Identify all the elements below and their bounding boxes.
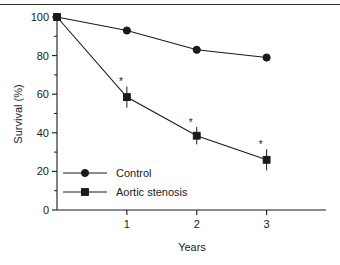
y-tick-label-0: 0 xyxy=(43,204,49,216)
asterisk-year-1: * xyxy=(119,76,123,87)
marker-aortic-stenosis-year-2 xyxy=(193,132,200,139)
marker-aortic-stenosis-year-3 xyxy=(263,156,270,163)
survival-line-chart: 020406080100 123 Survival (%) Years *** … xyxy=(0,0,340,265)
figure-container: 020406080100 123 Survival (%) Years *** … xyxy=(0,0,340,265)
x-axis-tick-labels: 123 xyxy=(124,218,270,230)
data-point-markers xyxy=(53,13,270,163)
legend-label-aortic-stenosis: Aortic stenosis xyxy=(116,186,188,198)
x-axis-ticks xyxy=(127,210,267,215)
series-lines xyxy=(57,17,267,160)
series-line-control xyxy=(57,17,267,58)
x-axis-title: Years xyxy=(178,241,206,253)
legend-marker-aortic-stenosis xyxy=(82,189,89,196)
marker-aortic-stenosis-year-1 xyxy=(123,94,130,101)
legend-marker-control xyxy=(81,169,88,176)
y-tick-label-80: 80 xyxy=(37,50,49,62)
x-tick-label-1: 1 xyxy=(124,218,130,230)
y-axis-title: Survival (%) xyxy=(12,84,24,143)
marker-control-year-1 xyxy=(123,27,130,34)
legend: ControlAortic stenosis xyxy=(63,167,188,198)
axes-group xyxy=(57,17,326,210)
x-tick-label-2: 2 xyxy=(194,218,200,230)
y-tick-label-20: 20 xyxy=(37,165,49,177)
legend-label-control: Control xyxy=(116,167,151,179)
asterisk-year-2: * xyxy=(189,117,193,128)
y-axis-tick-labels: 020406080100 xyxy=(31,11,49,216)
error-bars xyxy=(127,86,267,170)
y-tick-label-60: 60 xyxy=(37,88,49,100)
y-tick-label-100: 100 xyxy=(31,11,49,23)
series-line-aortic-stenosis xyxy=(57,17,267,160)
x-tick-label-3: 3 xyxy=(264,218,270,230)
marker-control-year-2 xyxy=(193,46,200,53)
y-tick-label-40: 40 xyxy=(37,127,49,139)
significance-asterisks: *** xyxy=(119,76,263,150)
marker-control-year-3 xyxy=(263,54,270,61)
asterisk-year-3: * xyxy=(259,139,263,150)
marker-aortic-stenosis-year-0 xyxy=(54,14,61,21)
